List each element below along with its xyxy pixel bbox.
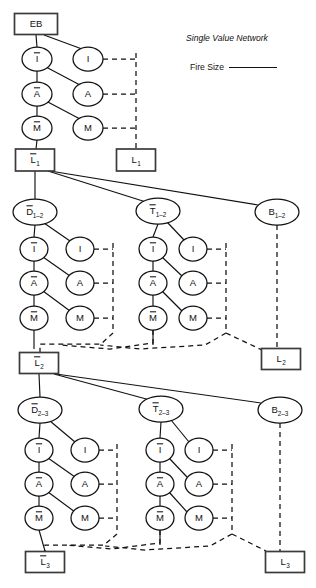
node-i2r[interactable]: I bbox=[185, 438, 213, 462]
node-m0[interactable]: M bbox=[73, 116, 103, 140]
node-d12[interactable]: D1–2 bbox=[13, 199, 57, 225]
node-label: L bbox=[41, 556, 46, 567]
dashed-edge bbox=[226, 243, 262, 350]
node-m2rb[interactable]: M bbox=[146, 506, 174, 530]
node-m2lb[interactable]: M bbox=[25, 506, 53, 530]
solid-edge bbox=[39, 530, 45, 551]
node-t23[interactable]: T2–3 bbox=[139, 396, 183, 422]
node-a0[interactable]: A bbox=[73, 82, 103, 106]
solid-edge bbox=[153, 224, 158, 237]
node-label: I bbox=[84, 444, 87, 455]
node-label-subscript: 1–2 bbox=[275, 212, 286, 219]
node-m1lb[interactable]: M bbox=[20, 306, 48, 330]
node-a1lb[interactable]: A bbox=[20, 271, 48, 295]
solid-edge bbox=[48, 458, 75, 477]
node-label: A bbox=[196, 478, 203, 489]
solid-edge bbox=[169, 458, 187, 477]
node-label: A bbox=[190, 277, 197, 288]
node-l2b[interactable]: L2 bbox=[20, 353, 59, 374]
node-b12[interactable]: B1–2 bbox=[255, 199, 299, 225]
node-label-subscript: 2–3 bbox=[278, 410, 289, 417]
node-label-subscript: 3 bbox=[286, 562, 290, 569]
node-label: M bbox=[84, 122, 92, 133]
node-i2rb[interactable]: I bbox=[146, 438, 174, 462]
node-label: M bbox=[156, 512, 164, 523]
node-label-subscript: 2–3 bbox=[38, 410, 49, 417]
node-label: M bbox=[149, 312, 157, 323]
node-label: M bbox=[35, 512, 43, 523]
node-a2r[interactable]: A bbox=[185, 472, 213, 496]
node-eb[interactable]: EB bbox=[15, 14, 58, 35]
solid-edge bbox=[36, 35, 37, 47]
node-label: A bbox=[36, 478, 43, 489]
node-label: L bbox=[281, 556, 286, 567]
node-label: A bbox=[150, 277, 157, 288]
node-l1[interactable]: L1 bbox=[117, 149, 156, 171]
legend-line-swatch bbox=[229, 67, 277, 68]
node-a2l[interactable]: A bbox=[71, 472, 99, 496]
node-label: L bbox=[35, 357, 40, 368]
dashed-edge bbox=[100, 333, 226, 349]
node-m2l[interactable]: M bbox=[71, 506, 99, 530]
solid-edge bbox=[160, 422, 161, 438]
node-label: M bbox=[30, 312, 38, 323]
node-label-subscript: 2 bbox=[40, 363, 44, 370]
node-l3b[interactable]: L3 bbox=[26, 552, 65, 573]
node-l2[interactable]: L2 bbox=[262, 349, 301, 370]
node-i1rb[interactable]: I bbox=[139, 237, 167, 261]
solid-edge bbox=[48, 171, 146, 202]
node-l3[interactable]: L3 bbox=[266, 552, 305, 573]
solid-edge bbox=[169, 492, 187, 512]
node-m2r[interactable]: M bbox=[185, 506, 213, 530]
solid-edge bbox=[43, 291, 70, 311]
node-label: EB bbox=[30, 18, 43, 29]
node-label: A bbox=[77, 277, 84, 288]
node-d23[interactable]: D2–3 bbox=[18, 397, 62, 423]
node-b23[interactable]: B2–3 bbox=[258, 397, 302, 423]
solid-edge bbox=[50, 421, 75, 442]
node-m1rb[interactable]: M bbox=[139, 306, 167, 330]
solid-edge bbox=[167, 222, 184, 240]
node-a1r[interactable]: A bbox=[179, 271, 207, 295]
node-label: L bbox=[31, 154, 36, 165]
node-a1rb[interactable]: A bbox=[139, 271, 167, 295]
node-label: I bbox=[38, 444, 41, 455]
node-i2lb[interactable]: I bbox=[25, 438, 53, 462]
node-m1l[interactable]: M bbox=[66, 306, 94, 330]
solid-edge bbox=[44, 35, 82, 49]
node-label-subscript: 1 bbox=[137, 160, 141, 167]
node-label: I bbox=[33, 243, 36, 254]
node-label: A bbox=[34, 88, 41, 99]
node-a2rb[interactable]: A bbox=[146, 472, 174, 496]
node-i1lb[interactable]: I bbox=[20, 237, 48, 261]
node-a2lb[interactable]: A bbox=[25, 472, 53, 496]
node-t12[interactable]: T1–2 bbox=[136, 198, 180, 224]
node-i0[interactable]: I bbox=[73, 47, 103, 71]
node-label: M bbox=[81, 512, 89, 523]
solid-edge bbox=[46, 101, 80, 119]
node-label-subscript: 2 bbox=[282, 359, 286, 366]
node-i0b[interactable]: I bbox=[22, 47, 52, 71]
legend-title: Single Value Network bbox=[186, 33, 268, 43]
node-a0b[interactable]: A bbox=[22, 82, 52, 106]
solid-edge bbox=[39, 374, 40, 397]
node-label: M bbox=[33, 122, 41, 133]
diagram-canvas: EBIIAAMML1L1D1–2T1–2B1–2IIAAMMIIAAMML2L2… bbox=[0, 0, 316, 588]
node-i1l[interactable]: I bbox=[66, 237, 94, 261]
node-label: I bbox=[152, 243, 155, 254]
legend-entry-fire-size: Fire Size bbox=[190, 62, 277, 72]
influence-diagram-figure: EBIIAAMML1L1D1–2T1–2B1–2IIAAMMIIAAMML2L2… bbox=[0, 0, 316, 588]
node-m1r[interactable]: M bbox=[179, 306, 207, 330]
node-a1l[interactable]: A bbox=[66, 271, 94, 295]
solid-edge bbox=[34, 225, 35, 237]
node-layer: EBIIAAMML1L1D1–2T1–2B1–2IIAAMMIIAAMML2L2… bbox=[13, 14, 305, 573]
node-l1b[interactable]: L1 bbox=[16, 149, 55, 171]
node-m0b[interactable]: M bbox=[22, 116, 52, 140]
node-i1r[interactable]: I bbox=[179, 237, 207, 261]
node-label: A bbox=[85, 88, 92, 99]
node-i2l[interactable]: I bbox=[71, 438, 99, 462]
node-label: M bbox=[195, 512, 203, 523]
node-label: I bbox=[192, 243, 195, 254]
dashed-edge bbox=[232, 444, 266, 551]
solid-edge bbox=[48, 492, 75, 512]
